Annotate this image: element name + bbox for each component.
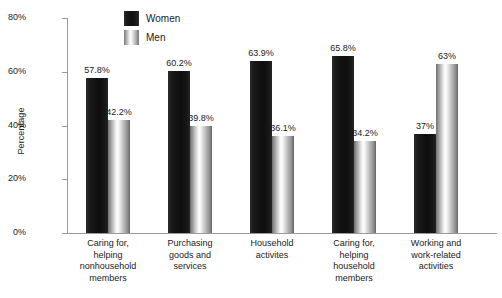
y-axis-tick-label: 80% [0,13,26,22]
bar-men [354,141,376,233]
bar-women [250,61,272,233]
bar-chart: Percentage 0%20%40%60%80% Women Men 57.8… [0,0,502,298]
bar-value-label: 65.8% [320,44,366,53]
bar-group: 57.8%42.2% [86,18,130,233]
bar-men [436,64,458,233]
bar-value-label: 60.2% [156,59,202,68]
y-axis-title: Percentage [16,86,26,176]
x-axis-line [67,233,497,234]
bar-value-label: 63% [424,52,470,61]
y-axis-tick-label: 20% [0,174,26,183]
bar-value-label: 42.2% [96,108,142,117]
bar-value-label: 63.9% [238,49,284,58]
bar-group: 37%63% [414,18,458,233]
bar-group: 65.8%34.2% [332,18,376,233]
plot-area: 57.8%42.2%60.2%39.8%63.9%36.1%65.8%34.2%… [68,18,497,233]
bar-men [108,120,130,233]
bar-women [86,78,108,233]
bar-value-label: 57.8% [74,66,120,75]
bar-group: 60.2%39.8% [168,18,212,233]
bar-women [414,134,436,233]
bar-value-label: 36.1% [260,124,306,133]
bar-group: 63.9%36.1% [250,18,294,233]
bar-women [332,56,354,233]
y-axis-tick [62,233,68,234]
bar-value-label: 34.2% [342,129,388,138]
bar-men [190,126,212,233]
bar-women [168,71,190,233]
y-axis-tick-label: 0% [0,228,26,237]
x-axis-category-label: Working and work-related activities [388,238,484,273]
y-axis-tick-label: 60% [0,67,26,76]
bar-value-label: 39.8% [178,114,224,123]
y-axis-tick-label: 40% [0,121,26,130]
bar-men [272,136,294,233]
